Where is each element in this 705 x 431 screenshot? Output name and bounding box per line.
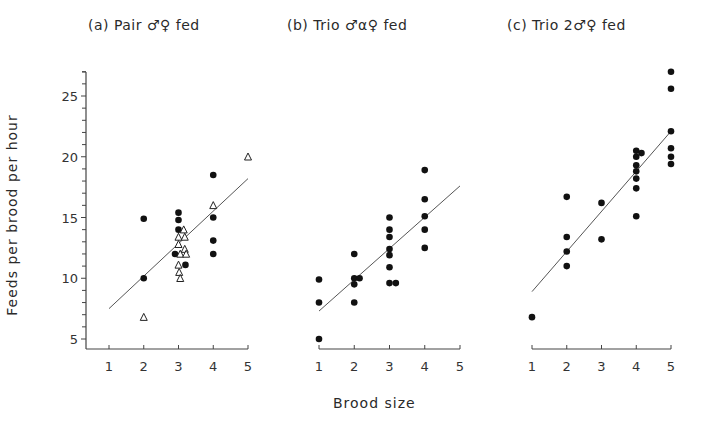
data-point-circle (633, 168, 640, 175)
x-tick-label: 4 (421, 359, 429, 374)
data-point-triangle (175, 261, 182, 268)
data-point-circle (316, 336, 323, 343)
data-point-circle (182, 262, 189, 269)
data-point-circle (598, 200, 605, 207)
data-point-circle (386, 280, 393, 287)
data-point-circle (386, 234, 393, 241)
data-point-triangle (210, 202, 217, 209)
data-point-circle (316, 299, 323, 306)
y-tick-label: 15 (61, 211, 78, 226)
data-point-circle (393, 280, 400, 287)
data-point-circle (668, 161, 675, 168)
x-tick-label: 5 (667, 359, 675, 374)
x-tick-label: 3 (174, 359, 182, 374)
data-point-circle (529, 314, 536, 321)
data-point-circle (386, 246, 393, 253)
data-point-circle (668, 128, 675, 135)
data-point-triangle (175, 233, 182, 240)
data-point-circle (421, 226, 428, 233)
data-point-circle (563, 194, 570, 201)
x-tick-label: 5 (244, 359, 252, 374)
x-tick-label: 2 (350, 359, 358, 374)
data-point-circle (421, 167, 428, 174)
x-tick-label: 1 (105, 359, 113, 374)
data-point-circle (421, 245, 428, 252)
data-point-circle (351, 281, 358, 288)
data-point-circle (351, 299, 358, 306)
figure: (a) Pair ♂♀ fed (b) Trio ♂α♀ fed (c) Tri… (0, 0, 705, 431)
data-point-circle (210, 237, 217, 244)
x-tick-label: 5 (456, 359, 464, 374)
data-point-circle (386, 252, 393, 259)
y-tick-label: 25 (61, 89, 78, 104)
data-point-triangle (181, 233, 188, 240)
x-tick-label: 3 (385, 359, 393, 374)
data-point-circle (386, 226, 393, 233)
panel-a: 12345510152025 (61, 72, 252, 374)
data-point-circle (421, 213, 428, 220)
data-point-circle (563, 248, 570, 255)
data-point-circle (668, 145, 675, 152)
x-tick-label: 2 (563, 359, 571, 374)
data-point-circle (633, 213, 640, 220)
data-point-circle (633, 185, 640, 192)
data-point-circle (633, 175, 640, 182)
x-tick-label: 4 (209, 359, 217, 374)
regression-line (532, 131, 671, 291)
data-point-triangle (176, 268, 183, 275)
data-point-circle (633, 153, 640, 160)
data-point-circle (633, 162, 640, 169)
x-tick-label: 3 (597, 359, 605, 374)
data-point-circle (210, 214, 217, 221)
data-point-circle (175, 209, 182, 216)
panel-c: 12345 (528, 68, 675, 374)
x-tick-label: 1 (528, 359, 536, 374)
x-tick-label: 1 (315, 359, 323, 374)
data-point-circle (421, 196, 428, 203)
x-tick-label: 2 (140, 359, 148, 374)
data-point-circle (175, 217, 182, 224)
data-point-circle (598, 236, 605, 243)
y-tick-label: 5 (70, 332, 78, 347)
data-point-circle (140, 215, 147, 222)
data-point-circle (563, 263, 570, 270)
y-tick-label: 10 (61, 271, 78, 286)
data-point-circle (210, 172, 217, 179)
data-point-circle (210, 251, 217, 258)
data-point-circle (356, 275, 363, 282)
data-point-circle (140, 275, 147, 282)
data-point-circle (668, 68, 675, 75)
data-point-circle (386, 264, 393, 271)
x-tick-label: 4 (632, 359, 640, 374)
data-point-triangle (140, 313, 147, 320)
panel-b: 12345 (315, 167, 464, 374)
scatter-plots: 123455101520251234512345 (0, 0, 705, 431)
data-point-circle (316, 276, 323, 283)
y-tick-label: 20 (61, 150, 78, 165)
data-point-circle (351, 251, 358, 258)
data-point-triangle (245, 153, 252, 160)
data-point-circle (668, 85, 675, 92)
data-point-circle (386, 214, 393, 221)
data-point-circle (668, 153, 675, 160)
data-point-circle (563, 234, 570, 241)
